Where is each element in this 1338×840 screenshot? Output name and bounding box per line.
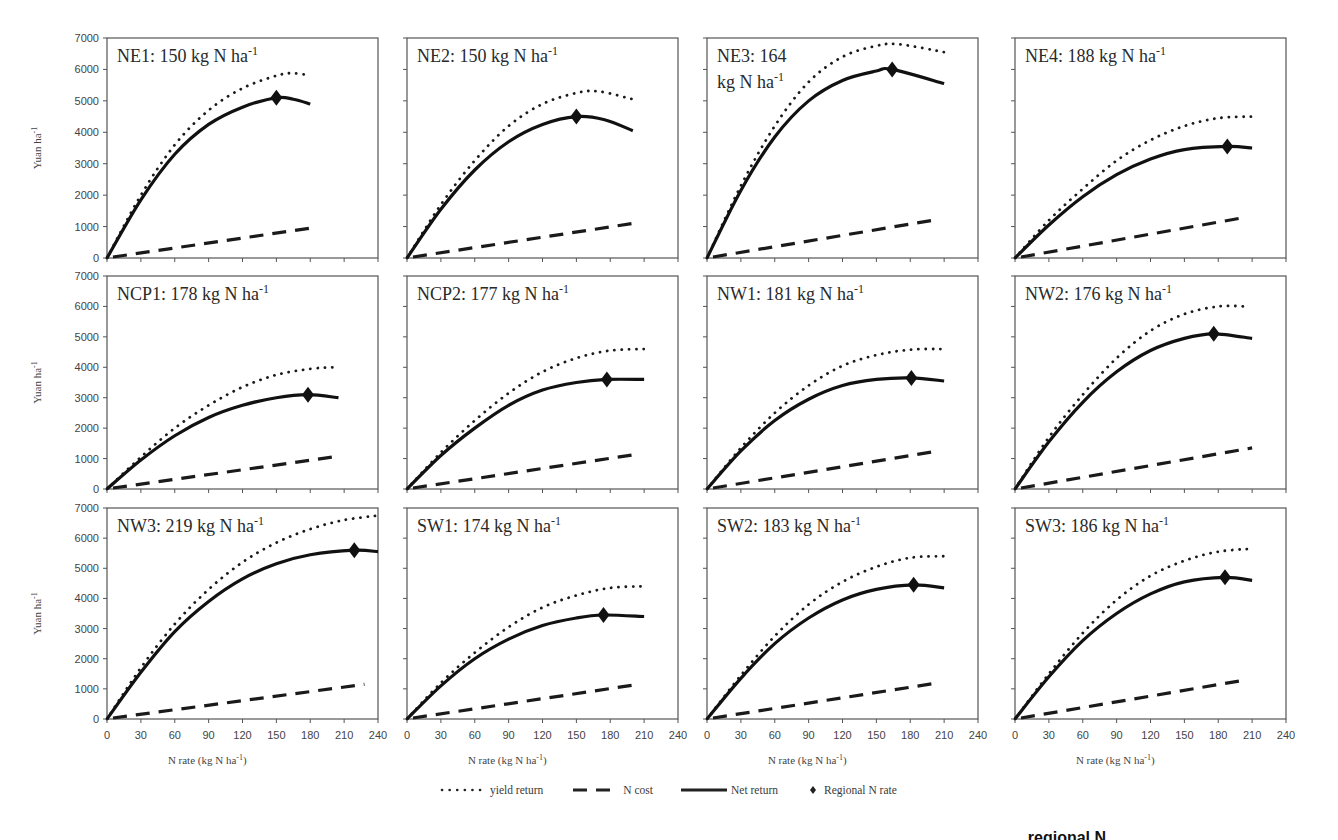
x-tick-label: 60 [469,729,481,741]
plot-frame [407,38,678,258]
y-tick-label: 7000 [75,32,99,44]
yield-return-line [407,91,633,258]
y-tick-label: 0 [93,252,99,264]
y-tick-label: 0 [93,483,99,495]
chart-figure: 01000200030004000500060007000Yuan ha-1NE… [0,0,1338,840]
x-tick-label: 210 [1243,729,1261,741]
diamond-marker-icon [806,785,820,795]
n-cost-line [413,223,633,257]
legend-item-yield-return: yield return [440,784,543,796]
panel-title: SW1: 174 kg N ha-1 [417,514,561,536]
panel-title: NE4: 188 kg N ha-1 [1025,44,1166,66]
y-tick-label: 5000 [75,331,99,343]
net-return-line [1015,146,1252,258]
y-axis-label: Yuan ha-1 [30,592,43,634]
legend-item-net-return: Net return [681,784,778,796]
figure-caption-fragment: ... regional N [1010,829,1106,840]
plot-frame [107,38,378,258]
x-tick-label: 0 [1012,729,1018,741]
x-tick-label: 150 [1175,729,1193,741]
panel-sw2: 0306090120150180210240N rate (kg N ha-1)… [703,508,987,767]
dotted-line-icon [440,785,486,795]
plot-frame [1015,276,1286,489]
y-tick-label: 6000 [75,300,99,312]
x-tick-label: 210 [635,729,653,741]
net-return-line [407,379,644,489]
n-cost-line [713,220,933,257]
panel-nw1: NW1: 181 kg N ha-1 [703,276,978,493]
regional-n-rate-marker [1221,138,1233,154]
x-tick-label: 120 [833,729,851,741]
y-tick-label: 3000 [75,158,99,170]
panel-title: NW3: 219 kg N ha-1 [117,514,264,536]
yield-return-line [107,367,333,489]
y-tick-label: 7000 [75,502,99,514]
x-tick-label: 180 [901,729,919,741]
panel-title: NW1: 181 kg N ha-1 [717,282,864,304]
x-tick-label: 240 [969,729,987,741]
net-return-line [707,68,944,258]
regional-n-rate-marker [302,387,314,403]
panel-title: SW2: 183 kg N ha-1 [717,514,861,536]
y-tick-label: 1000 [75,453,99,465]
net-return-line [107,395,338,489]
y-tick-label: 0 [93,713,99,725]
x-tick-label: 0 [704,729,710,741]
plot-frame [407,508,678,719]
y-tick-label: 2000 [75,189,99,201]
x-tick-label: 180 [1209,729,1227,741]
y-tick-label: 7000 [75,270,99,282]
plot-frame [707,508,978,719]
x-tick-label: 120 [533,729,551,741]
panel-ncp2: NCP2: 177 kg N ha-1 [403,276,678,493]
x-tick-label: 30 [135,729,147,741]
legend-item-regional-n-rate: Regional N rate [806,784,897,796]
n-cost-line [113,684,364,718]
y-tick-label: 6000 [75,63,99,75]
n-cost-line [113,228,310,257]
x-axis-label: N rate (kg N ha-1) [768,753,847,767]
x-tick-label: 30 [1043,729,1055,741]
yield-return-line [407,349,644,489]
n-cost-line [1021,217,1246,257]
x-tick-label: 60 [169,729,181,741]
panel-title: NE1: 150 kg N ha-1 [117,44,258,66]
plot-frame [407,276,678,489]
x-tick-label: 0 [104,729,110,741]
yield-return-line [1015,549,1252,719]
plot-frame [107,508,378,719]
panel-nw3: 01000200030004000500060007000Yuan ha-103… [30,502,387,767]
y-tick-label: 3000 [75,623,99,635]
regional-n-rate-marker [270,90,282,106]
x-tick-label: 240 [669,729,687,741]
regional-n-rate-marker [597,607,609,623]
x-tick-label: 120 [233,729,251,741]
y-tick-label: 1000 [75,221,99,233]
panel-title: SW3: 186 kg N ha-1 [1025,514,1169,536]
yield-return-line [407,586,644,719]
panel-ne3: NE3: 164kg N ha-1 [703,38,978,262]
panel-title: NCP2: 177 kg N ha-1 [417,282,569,304]
x-axis-label: N rate (kg N ha-1) [468,753,547,767]
solid-line-icon [681,785,727,795]
yield-return-line [107,516,378,719]
panel-ncp1: 01000200030004000500060007000Yuan ha-1NC… [30,270,378,495]
chart-legend: yield return N cost Net return Regional … [440,780,925,800]
net-return-line [1015,577,1252,719]
x-tick-label: 240 [369,729,387,741]
n-cost-line [1021,680,1246,718]
yield-return-line [707,349,944,489]
legend-label-net-return: Net return [731,784,778,796]
x-tick-label: 30 [435,729,447,741]
panel-nw2: NW2: 176 kg N ha-1 [1011,276,1286,493]
net-return-line [1015,334,1252,489]
x-tick-label: 180 [601,729,619,741]
x-tick-label: 30 [735,729,747,741]
n-cost-line [113,457,333,488]
legend-label-n-cost: N cost [623,784,653,796]
y-axis-label: Yuan ha-1 [30,127,43,169]
panel-ne2: NE2: 150 kg N ha-1 [403,38,678,262]
net-return-line [407,116,633,258]
x-tick-label: 90 [203,729,215,741]
x-tick-label: 120 [1141,729,1159,741]
